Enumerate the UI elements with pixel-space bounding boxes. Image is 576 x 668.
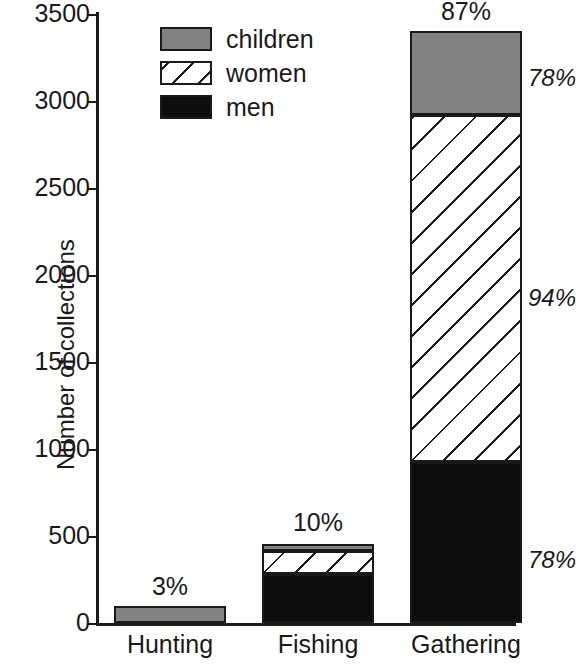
y-tick-label-2500: 2500	[34, 175, 90, 200]
y-tick-label-2000: 2000	[34, 262, 90, 287]
side-label-gathering-men: 78%	[528, 548, 576, 572]
bar-hunting[interactable]: 3%	[114, 606, 226, 623]
y-tick-label-500: 500	[48, 523, 90, 548]
legend-item-children[interactable]: children	[160, 24, 314, 54]
bar-segment-gathering-men[interactable]	[410, 462, 522, 623]
legend-label-women: women	[226, 61, 307, 86]
x-label-gathering: Gathering	[391, 630, 541, 658]
bar-label-hunting: 3%	[114, 574, 226, 599]
y-tick-label-1000: 1000	[34, 436, 90, 461]
bar-label-gathering: 87%	[410, 0, 522, 24]
legend-item-women[interactable]: women	[160, 58, 314, 88]
legend: children women men	[160, 24, 314, 126]
legend-item-men[interactable]: men	[160, 92, 314, 122]
bar-label-fishing: 10%	[262, 510, 374, 535]
side-label-gathering-children: 78%	[528, 66, 576, 90]
bar-segment-fishing-men[interactable]	[262, 574, 374, 623]
x-label-fishing: Fishing	[243, 630, 393, 658]
bar-segment-gathering-women[interactable]	[410, 115, 522, 462]
side-label-gathering-women: 94%	[528, 286, 576, 310]
y-tick-label-3000: 3000	[34, 88, 90, 113]
legend-label-men: men	[226, 95, 275, 120]
bar-segment-fishing-women[interactable]	[262, 551, 374, 574]
bar-segment-hunting-children[interactable]	[114, 606, 226, 623]
y-tick-label-0: 0	[76, 610, 90, 635]
legend-label-children: children	[226, 27, 314, 52]
bar-segment-gathering-children[interactable]	[410, 31, 522, 115]
legend-swatch-women-icon	[160, 61, 212, 85]
bar-gathering[interactable]: 87%	[410, 31, 522, 623]
bar-fishing[interactable]: 10%	[262, 549, 374, 623]
y-tick-label-3500: 3500	[34, 1, 90, 26]
y-tick-label-1500: 1500	[34, 349, 90, 374]
y-axis-title: Number of collections	[52, 170, 80, 470]
x-axis-line	[96, 623, 516, 626]
legend-swatch-men-icon	[160, 95, 212, 119]
bar-segment-fishing-children[interactable]	[262, 544, 374, 551]
legend-swatch-children-icon	[160, 27, 212, 51]
x-label-hunting: Hunting	[95, 630, 245, 658]
